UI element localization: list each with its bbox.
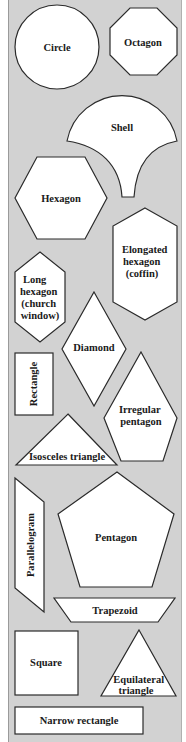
trapezoid-shape: Trapezoid [54, 598, 175, 622]
isosceles-triangle-shape: Isosceles triangle [16, 414, 117, 465]
octagon-shape: Octagon [110, 8, 177, 75]
octagon-label: Octagon [124, 37, 162, 48]
rectangle-shape: Rectangle [15, 353, 53, 415]
trapezoid-label: Trapezoid [92, 605, 137, 616]
circle-label: Circle [43, 42, 71, 53]
circle-shape: Circle [15, 5, 99, 89]
rectangle-label: Rectangle [28, 362, 39, 407]
square-label: Square [30, 657, 62, 668]
hexagon-label: Hexagon [41, 193, 81, 204]
shell-label: Shell [111, 122, 133, 133]
pentagon-shape: Pentagon [58, 472, 174, 587]
irregular-pentagon-label: Irregular pentagon [119, 404, 163, 427]
narrow-rectangle-label: Narrow rectangle [40, 715, 119, 726]
diamond-shape: Diamond [62, 292, 126, 406]
hexagon-shape: Hexagon [15, 157, 107, 239]
shapes-diagram: Circle Octagon Shell Hexagon Elongated h… [0, 0, 186, 742]
diamond-label: Diamond [73, 342, 115, 353]
elongated-hexagon-shape: Elongated hexagon (coffin) [113, 208, 177, 320]
long-hexagon-shape: Long hexagon (church window) [15, 252, 65, 342]
square-shape: Square [15, 631, 78, 695]
equilateral-triangle-shape: Equilateral triangle [101, 630, 176, 696]
parallelogram-label: Parallelogram [25, 513, 36, 577]
pentagon-label: Pentagon [95, 532, 137, 543]
parallelogram-shape: Parallelogram [15, 478, 44, 612]
isosceles-triangle-label: Isosceles triangle [29, 451, 105, 462]
narrow-rectangle-shape: Narrow rectangle [15, 707, 143, 734]
